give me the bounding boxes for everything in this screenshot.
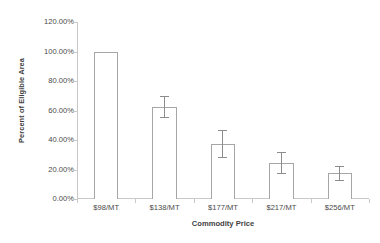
y-tick-label: 40.00% — [28, 136, 74, 144]
x-tick-label: $256/MT — [325, 203, 355, 212]
bar-group — [328, 22, 353, 199]
bar-group — [269, 22, 294, 199]
y-tick-label: 60.00% — [28, 107, 74, 115]
x-tick-label: $98/MT — [93, 203, 119, 212]
bar[interactable] — [94, 52, 119, 200]
y-tick-mark — [73, 140, 77, 141]
y-tick-mark — [73, 170, 77, 171]
error-bar-cap-top — [160, 96, 169, 97]
error-bar-cap-bottom — [218, 157, 227, 158]
y-axis-tick-labels: 0.00%20.00%40.00%60.00%80.00%100.00%120.… — [28, 0, 74, 243]
y-tick-label: 100.00% — [28, 48, 74, 56]
bar-group — [211, 22, 236, 199]
error-bar-cap-top — [218, 130, 227, 131]
y-tick-mark — [73, 52, 77, 53]
x-tick-mark — [369, 199, 370, 203]
x-tick-label: $177/MT — [208, 203, 238, 212]
error-bar-line — [281, 152, 282, 174]
y-tick-mark — [73, 111, 77, 112]
y-axis-title-text: Percent of Eligible Area — [18, 57, 27, 142]
error-bar-cap-bottom — [160, 117, 169, 118]
error-bar-line — [222, 130, 223, 159]
y-tick-label: 0.00% — [28, 195, 74, 203]
y-tick-label: 80.00% — [28, 77, 74, 85]
bar-group — [94, 22, 119, 199]
y-tick-mark — [73, 22, 77, 23]
bar-chart: Percent of Eligible Area 0.00%20.00%40.0… — [0, 0, 380, 243]
error-bar-cap-bottom — [335, 180, 344, 181]
x-tick-label: $138/MT — [150, 203, 180, 212]
bar[interactable] — [152, 107, 177, 199]
y-axis-line — [77, 22, 78, 199]
error-bar-cap-top — [335, 166, 344, 167]
y-tick-label: 120.00% — [28, 18, 74, 26]
error-bar-line — [339, 166, 340, 181]
plot-area — [77, 22, 369, 199]
y-tick-mark — [73, 81, 77, 82]
y-tick-label: 20.00% — [28, 166, 74, 174]
bar-group — [152, 22, 177, 199]
x-axis-tick-labels: $98/MT$138/MT$177/MT$217/MT$256/MT — [77, 203, 369, 217]
error-bar-cap-bottom — [277, 173, 286, 174]
x-axis-title: Commodity Price — [77, 219, 369, 228]
error-bar-line — [164, 96, 165, 118]
error-bar-cap-top — [277, 152, 286, 153]
x-tick-label: $217/MT — [266, 203, 296, 212]
